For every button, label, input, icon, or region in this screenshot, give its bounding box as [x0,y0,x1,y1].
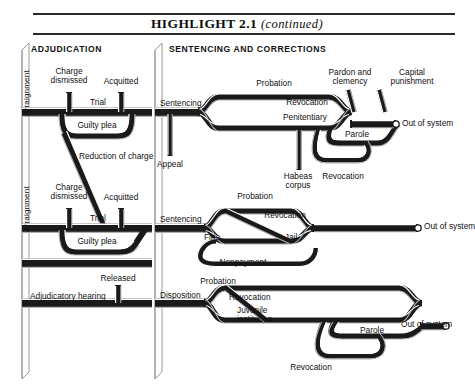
label-fine: Fine [204,233,220,242]
felony-sentencing-trunk [155,108,200,116]
label-reduction-of-charge: Reduction of charge [79,152,153,161]
flow-probation-felony [198,94,352,116]
label-capital-punishment: Capital punishment [391,68,434,87]
label-nonpayment: Nonpayment [219,258,266,267]
label-penitentiary: Penitentiary [283,113,327,122]
branch-charge-dismissed-misdemeanor [67,208,72,228]
label-appeal: Appeal [157,160,183,169]
label-released: Released [100,274,135,283]
flow-out-of-system-felony [350,121,399,128]
label-out-of-system-felony: Out of system [402,119,453,128]
label-sentencing-felony: Sentencing [160,99,202,108]
label-arraignment-felony: Arraignment [23,70,32,116]
label-arraignment-misdemeanor: Arraignment [23,186,32,232]
label-revocation-parole-juvenile: Revocation [290,363,332,372]
flow-penitentiary [198,109,352,131]
label-guilty-plea-misdemeanor: Guilty plea [77,237,116,246]
label-parole-felony: Parole [345,130,369,139]
branch-capital-punishment [377,90,387,113]
label-sentencing-misdemeanor: Sentencing [160,215,202,224]
label-out-of-system-misdemeanor: Out of system [424,222,475,231]
branch-habeas-corpus [297,128,301,170]
label-probation-misdemeanor: Probation [237,192,273,201]
label-parole-juvenile: Parole [360,326,384,335]
branch-appeal [168,112,172,156]
label-probation-juvenile: Probation [200,277,236,286]
branch-released-juvenile [116,285,121,303]
label-charge-dismissed-misdemeanor: Charge dismissed [51,183,88,202]
label-pardon-and-clemency: Pardon and clemency [329,68,372,87]
branch-acquitted-misdemeanor [119,208,124,228]
branch-charge-dismissed-felony [67,92,72,112]
label-charge-dismissed-felony: Charge dismissed [51,67,88,86]
label-probation-felony: Probation [256,79,292,88]
label-revocation-juvenile: Revocation [229,293,271,302]
misdemeanor-trunk [22,224,152,232]
label-jail: Jail [285,233,297,242]
label-revocation-felony: Revocation [286,98,328,107]
branch-acquitted-felony [119,92,124,112]
label-revocation-parole-felony: Revocation [322,172,364,181]
juvenile-trunk-upper [22,259,152,267]
label-guilty-plea-felony: Guilty plea [77,121,116,130]
label-trial-felony: Trial [90,98,106,107]
label-juvenile-institution: Juvenile institution [237,306,272,325]
label-adjudicatory-hearing: Adjudicatory hearing [30,292,106,301]
label-disposition: Disposition [160,291,201,300]
label-acquitted-felony: Acquitted [104,77,139,86]
flow-out-of-system-misdemeanor [312,225,421,232]
juvenile-disposition-trunk [155,299,206,307]
label-revocation-misdemeanor: Revocation [264,211,306,220]
misdemeanor-sentencing-trunk [155,224,206,232]
label-acquitted-misdemeanor: Acquitted [104,193,139,202]
label-out-of-system-juvenile: Out of system [401,320,452,329]
label-trial-misdemeanor: Trial [90,214,106,223]
label-habeas-corpus: Habeas corpus [284,172,313,191]
column-divider-middle [155,43,162,379]
